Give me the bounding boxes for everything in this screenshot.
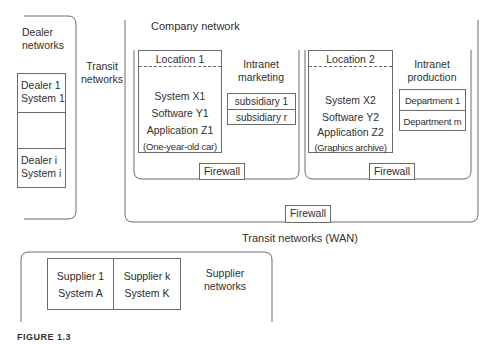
dealer-system: System 1 [21,92,65,105]
location-1-software: Software Y1 [139,107,221,120]
supplier-networks-title: Supplier networks [190,267,260,293]
location-1-application: Application Z1 [139,124,221,137]
department-item: Department m [400,111,465,131]
supplier-name: Supplier 1 [48,268,113,285]
location-2-title: Location 2 [309,53,392,66]
location-2-application: Application Z2 [309,126,392,139]
firewall-company: Firewall [285,205,331,223]
subsidiary-item: subsidiary r [228,110,295,125]
location-1-title: Location 1 [139,53,221,66]
firewall-production: Firewall [369,163,415,180]
company-network-title: Company network [151,20,240,33]
transit-line1: Transit [80,60,124,73]
intranet-production-line2: production [397,71,467,84]
dealer-title-line2: networks [22,39,64,52]
location-2-software: Software Y2 [309,111,392,124]
dealer-system: System i [21,167,65,180]
transit-networks-label: Transit networks [80,60,124,86]
location-2-note: (Graphics archive) [309,141,392,154]
supplier-entry-k: Supplier k System K [114,259,180,309]
location-2-system: System X2 [309,94,392,107]
intranet-production-line1: Intranet [397,58,467,71]
supplier-list: Supplier 1 System A Supplier k System K [47,258,181,310]
location-1-system: System X1 [139,90,221,103]
intranet-marketing-line1: Intranet [226,58,296,71]
supplier-title-line1: Supplier [190,267,260,280]
supplier-system: System A [48,285,113,302]
transit-wan-label: Transit networks (WAN) [190,232,410,245]
transit-line2: networks [80,73,124,86]
intranet-production-title: Intranet production [397,58,467,84]
supplier-system: System K [114,285,180,302]
dealer-title-line1: Dealer [22,26,64,39]
dashed-divider [309,66,392,67]
firewall-marketing: Firewall [199,163,245,180]
location-1-box: Location 1 System X1 Software Y1 Applica… [138,50,222,153]
subsidiary-list: subsidiary 1 subsidiary r [227,93,296,125]
supplier-entry-1: Supplier 1 System A [48,259,114,309]
dealer-entry-i: Dealer i System i [18,149,65,188]
dealer-list: Dealer 1 System 1 Dealer i System i [17,73,66,188]
department-item: Department 1 [400,90,465,111]
supplier-name: Supplier k [114,268,180,285]
figure-caption: FIGURE 1.3 [17,331,71,344]
department-list: Department 1 Department m [399,89,466,131]
dashed-divider [139,66,221,67]
supplier-title-line2: networks [190,280,260,293]
dealer-entry-1: Dealer 1 System 1 [18,74,65,113]
dealer-entry-gap [18,113,65,149]
dealer-name: Dealer 1 [21,79,65,92]
intranet-marketing-line2: marketing [226,71,296,84]
dealer-name: Dealer i [21,154,65,167]
location-1-note: (One-year-old car) [139,140,221,153]
subsidiary-item: subsidiary 1 [228,94,295,110]
intranet-marketing-title: Intranet marketing [226,58,296,84]
location-2-box: Location 2 System X2 Software Y2 Applica… [308,50,393,153]
dealer-networks-title: Dealer networks [22,26,64,52]
